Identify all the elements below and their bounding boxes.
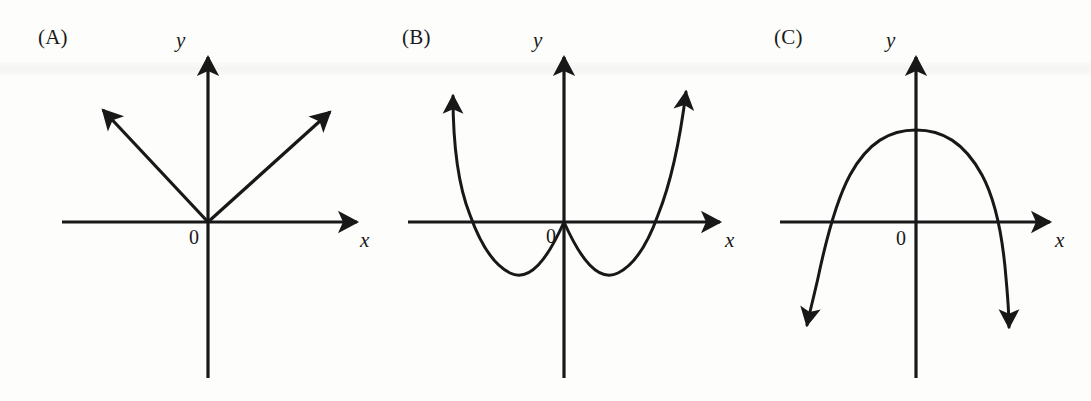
figure-root: (A) y x 0 (B) y x 0	[0, 0, 1091, 401]
curve-b-right-branch	[564, 92, 686, 275]
x-axis-label-a: x	[360, 228, 369, 253]
origin-label-c: 0	[896, 227, 906, 250]
x-axis-label-c: x	[1055, 228, 1064, 253]
curve-a-left-ray	[103, 110, 208, 222]
origin-label-b: 0	[546, 225, 556, 248]
panel-c-graph	[760, 0, 1091, 401]
panel-label-a: (A)	[38, 25, 68, 50]
panel-label-b: (B)	[402, 25, 431, 50]
curve-a-right-ray	[208, 112, 330, 222]
panel-a-graph	[0, 0, 380, 401]
y-axis-label-a: y	[176, 28, 185, 53]
panel-b-graph	[380, 0, 760, 401]
y-axis-label-b: y	[533, 28, 542, 53]
panel-label-c: (C)	[774, 25, 803, 50]
y-axis-label-c: y	[886, 28, 895, 53]
curve-c-right-branch	[916, 130, 1009, 327]
origin-label-a: 0	[189, 226, 199, 249]
panel-c: (C) y x 0	[760, 0, 1091, 401]
panel-a: (A) y x 0	[0, 0, 380, 401]
curve-b-left-branch	[453, 96, 564, 275]
panel-b: (B) y x 0	[380, 0, 760, 401]
x-axis-label-b: x	[725, 228, 734, 253]
